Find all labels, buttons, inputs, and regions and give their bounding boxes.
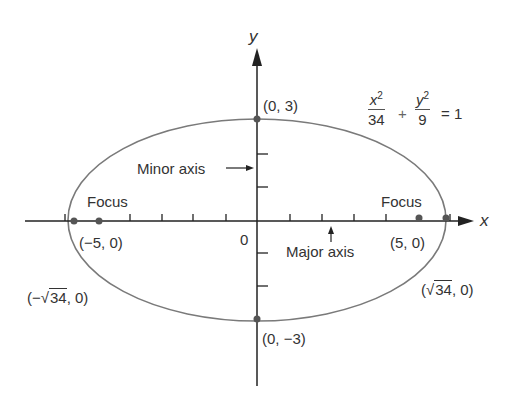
left-vertex-label: (−√34, 0) xyxy=(27,290,88,305)
ellipse-diagram xyxy=(0,0,508,396)
major-axis-arrowhead-icon xyxy=(328,226,334,234)
right-focus-label: (5, 0) xyxy=(390,235,425,250)
equation-plus: + xyxy=(398,106,407,121)
y-axis-arrow-icon xyxy=(252,48,262,66)
major-axis-label: Major axis xyxy=(286,244,354,259)
origin-label: 0 xyxy=(240,232,248,247)
minor-axis-arrowhead-icon xyxy=(246,165,254,171)
right-focus-annotation: Focus xyxy=(381,194,422,209)
x-axis-arrow-icon xyxy=(458,216,474,226)
equation-rhs: = 1 xyxy=(441,106,462,121)
top-vertex-label: (0, 3) xyxy=(263,98,298,113)
right-vertex-label: (√34, 0) xyxy=(421,282,474,297)
y-axis-label: y xyxy=(249,28,258,45)
x-axis-label: x xyxy=(480,212,489,229)
y-ticks xyxy=(257,154,268,286)
left-focus-annotation: Focus xyxy=(87,194,128,209)
equation-term-y: y2 9 xyxy=(415,90,430,128)
left-focus-label: (−5, 0) xyxy=(79,235,123,250)
minor-axis-label: Minor axis xyxy=(137,161,205,176)
bottom-vertex-label: (0, −3) xyxy=(262,331,306,346)
equation-term-x: x2 34 xyxy=(368,90,385,128)
